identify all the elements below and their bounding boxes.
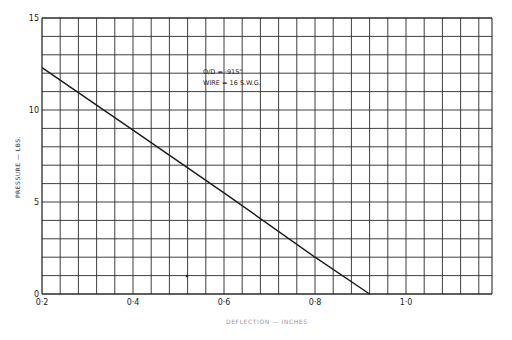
x-tick-label: 0·8 <box>309 298 322 307</box>
y-tick-label: 5 <box>34 198 39 207</box>
x-tick-label: 0·4 <box>127 298 140 307</box>
x-tick-label: 1·0 <box>400 298 413 307</box>
chart-background <box>0 0 512 340</box>
y-tick-label: 15 <box>29 14 39 23</box>
x-axis-label: DEFLECTION — INCHES <box>226 318 308 325</box>
annotation-od: O/D = ·915" <box>203 68 242 76</box>
stray-mark <box>186 275 189 278</box>
x-tick-label: 0·6 <box>218 298 231 307</box>
y-axis-label: PRESSURE — LBS. <box>14 136 21 198</box>
annotation-wire: WIRE = 16 S.W.G. <box>203 79 261 87</box>
y-tick-label: 10 <box>29 106 39 115</box>
spring-pressure-chart: 051015 0·20·40·60·81·0 PRESSURE — LBS. D… <box>0 0 512 340</box>
x-tick-label: 0·2 <box>36 298 49 307</box>
